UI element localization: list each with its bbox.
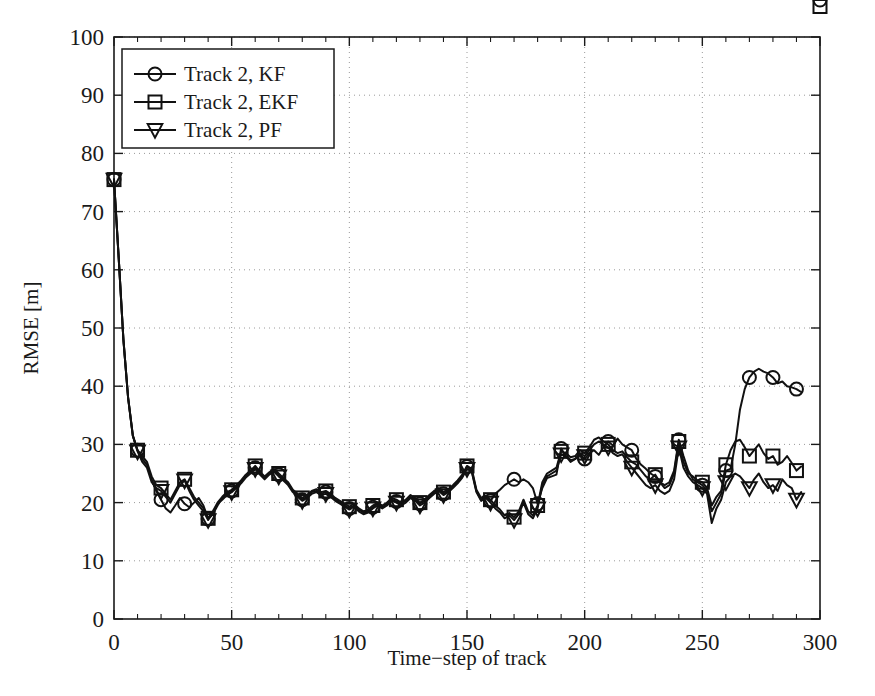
x-tick-label: 100 xyxy=(332,630,367,655)
y-axis-title: RMSE [m] xyxy=(19,282,43,375)
y-tick-label: 10 xyxy=(81,549,104,574)
chart-canvas: 0102030405060708090100050100150200250300… xyxy=(0,0,875,696)
y-tick-label: 100 xyxy=(70,25,105,50)
y-tick-label: 0 xyxy=(93,607,105,632)
x-tick-label: 250 xyxy=(685,630,720,655)
y-tick-label: 70 xyxy=(81,200,104,225)
y-tick-label: 50 xyxy=(81,316,104,341)
x-axis-title: Time−step of track xyxy=(387,646,547,670)
legend-entry-label: Track 2, KF xyxy=(184,62,285,86)
x-tick-label: 50 xyxy=(220,630,243,655)
legend-entry-label: Track 2, PF xyxy=(184,118,282,142)
y-tick-label: 40 xyxy=(81,374,104,399)
x-tick-label: 200 xyxy=(567,630,602,655)
y-tick-label: 20 xyxy=(81,491,104,516)
legend-entry-label: Track 2, EKF xyxy=(184,90,298,114)
x-tick-label: 0 xyxy=(108,630,120,655)
y-tick-label: 90 xyxy=(81,83,104,108)
y-tick-label: 60 xyxy=(81,258,104,283)
y-tick-label: 30 xyxy=(81,432,104,457)
rmse-chart-figure: 0102030405060708090100050100150200250300… xyxy=(0,0,875,696)
x-tick-label: 300 xyxy=(803,630,838,655)
chart-legend[interactable]: Track 2, KFTrack 2, EKFTrack 2, PF xyxy=(122,49,334,148)
y-tick-label: 80 xyxy=(81,141,104,166)
